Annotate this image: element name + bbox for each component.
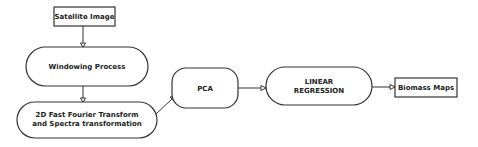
node-label: Biomass Maps xyxy=(398,84,454,92)
node-label-line2: REGRESSION xyxy=(294,87,344,95)
flowchart-canvas: Satellite Image Windowing Process 2D Fas… xyxy=(0,0,478,147)
arrowhead-icon xyxy=(261,86,266,91)
node-linear-regression: LINEAR REGRESSION xyxy=(266,67,372,105)
node-label-line1: LINEAR xyxy=(305,78,334,86)
node-satellite-image: Satellite Image xyxy=(54,7,115,26)
node-label: Windowing Process xyxy=(49,63,126,71)
edge-satellite-to-windowing xyxy=(81,26,86,48)
node-label-line2: and Spectra transformation xyxy=(32,120,142,128)
node-biomass-maps: Biomass Maps xyxy=(395,78,457,97)
edge-windowing-to-fft xyxy=(81,86,86,103)
edge-fft-to-pca xyxy=(156,97,175,115)
arrowhead-icon xyxy=(390,85,395,90)
node-pca: PCA xyxy=(172,68,238,108)
node-windowing-process: Windowing Process xyxy=(26,47,148,86)
edge-pca-to-regression xyxy=(238,86,266,91)
node-label: PCA xyxy=(197,85,213,93)
node-fft-spectra: 2D Fast Fourier Transform and Spectra tr… xyxy=(17,102,157,138)
node-label: Satellite Image xyxy=(55,13,115,21)
edge-regression-to-biomass xyxy=(372,85,395,90)
node-label-line1: 2D Fast Fourier Transform xyxy=(36,111,139,119)
